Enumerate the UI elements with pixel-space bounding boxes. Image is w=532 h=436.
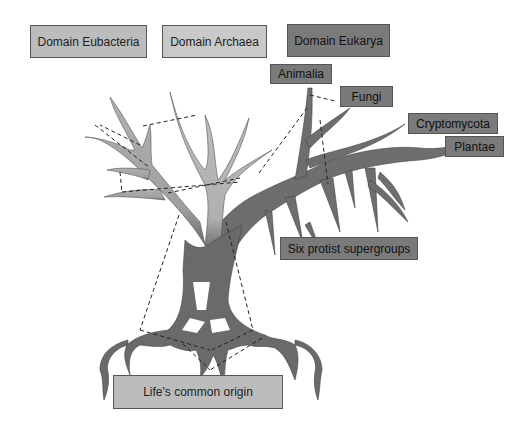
fungi-label: Fungi <box>340 86 393 107</box>
common-origin-label: Life's common origin <box>113 375 283 409</box>
animalia-label: Animalia <box>270 64 332 84</box>
bacteria-branch <box>85 97 205 245</box>
protist-supergroups-label: Six protist supergroups <box>280 237 418 260</box>
tree-of-life-diagram <box>0 0 532 436</box>
archaea-branch <box>170 92 272 250</box>
cryptomycota-label: Cryptomycota <box>408 113 498 134</box>
domain-eukarya-label: Domain Eukarya <box>287 24 390 57</box>
domain-eubacteria-label: Domain Eubacteria <box>30 25 147 58</box>
domain-archaea-label: Domain Archaea <box>162 25 267 58</box>
plantae-label: Plantae <box>445 136 504 157</box>
